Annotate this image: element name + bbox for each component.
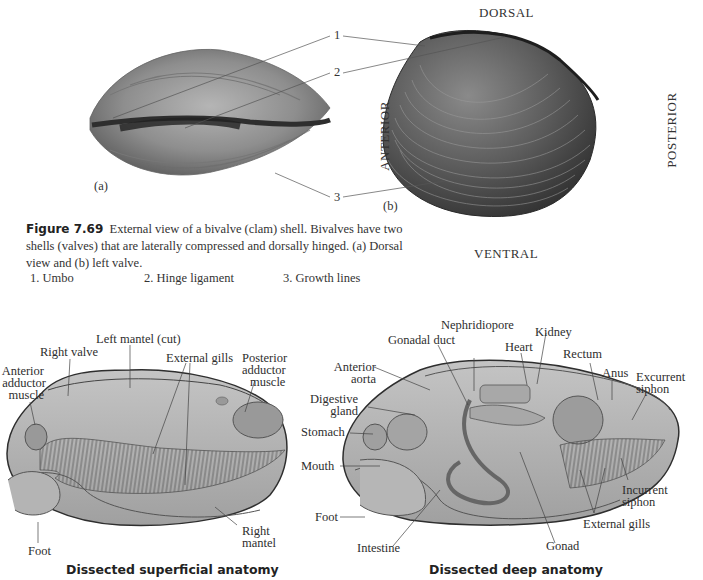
orientation-posterior: POSTERIOR (664, 85, 680, 175)
legend-number: 3. (283, 271, 292, 285)
orientation-ventral: VENTRAL (474, 246, 538, 262)
label-anterior-adductor-3: muscle (0, 389, 44, 402)
label-foot-deep: Foot (315, 511, 338, 524)
callout-number-2: 2 (334, 65, 340, 80)
label-external-gills-superficial: External gills (166, 352, 233, 365)
shell-left-valve (383, 30, 598, 216)
panel-a-label: (a) (94, 179, 108, 194)
legend-item-growth-lines: 3. Growth lines (283, 271, 360, 286)
label-incurrent-siphon-2: siphon (622, 496, 655, 509)
label-anterior-aorta-2: aorta (320, 373, 376, 386)
orientation-anterior: ANTERIOR (377, 91, 393, 181)
callout-number-3: 3 (334, 190, 340, 205)
label-posterior-adductor-3: muscle (250, 376, 285, 389)
label-foot-superficial: Foot (28, 545, 51, 558)
label-right-mantel-2: mantel (242, 537, 276, 550)
figure-illustrations (0, 0, 703, 580)
label-intestine: Intestine (357, 542, 400, 555)
legend-text: Growth lines (296, 271, 361, 285)
label-stomach: Stomach (301, 426, 345, 439)
label-nephridiopore: Nephridiopore (441, 319, 514, 332)
orientation-dorsal: DORSAL (479, 5, 534, 21)
shell-dorsal-view (90, 49, 330, 175)
label-rectum: Rectum (563, 348, 602, 361)
label-right-valve: Right valve (40, 346, 98, 359)
legend-item-umbo: 1. Umbo (30, 271, 74, 286)
legend-text: Hinge ligament (157, 271, 234, 285)
legend-text: Umbo (43, 271, 74, 285)
label-external-gills-deep: External gills (583, 518, 650, 531)
figure-caption: Figure 7.69 External view of a bivalve (… (26, 221, 416, 272)
legend-number: 2. (144, 271, 153, 285)
label-kidney: Kidney (535, 326, 572, 339)
label-mouth: Mouth (301, 460, 334, 473)
callout-number-1: 1 (334, 28, 340, 43)
label-excurrent-siphon-2: siphon (636, 383, 669, 396)
figure-number: Figure 7.69 (26, 222, 103, 236)
label-anus: Anus (602, 367, 628, 380)
label-gonadal-duct: Gonadal duct (388, 334, 455, 347)
clam-superficial-illustration (7, 370, 287, 526)
label-left-mantel: Left mantel (cut) (96, 333, 181, 346)
panel-b-label: (b) (383, 199, 398, 214)
legend-item-hinge-ligament: 2. Hinge ligament (144, 271, 234, 286)
subtitle-deep-anatomy: Dissected deep anatomy (429, 562, 603, 577)
label-heart: Heart (505, 341, 533, 354)
label-digestive-gland-2: gland (300, 405, 358, 418)
subtitle-superficial-anatomy: Dissected superficial anatomy (66, 562, 279, 577)
legend-number: 1. (30, 271, 39, 285)
label-gonad: Gonad (546, 540, 579, 553)
